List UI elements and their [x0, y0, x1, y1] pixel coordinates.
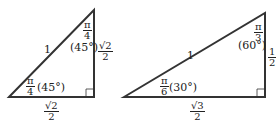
t1-bottom-angle-frac: π 4: [26, 76, 35, 97]
t2-top-angle-degrees: (60°): [238, 40, 266, 51]
t2-bottom-angle-degrees: (30°): [169, 82, 197, 93]
triangles-drawing: [0, 0, 278, 125]
t1-bottom-angle-degrees: (45°): [37, 82, 65, 93]
t2-hypotenuse-label: 1: [187, 50, 194, 61]
right-angle-marker-2: [257, 89, 265, 97]
t1-top-angle-frac: π 4: [83, 20, 92, 41]
t1-vertical-side-label: √2 2: [98, 41, 113, 62]
t1-top-angle-degrees: (45°): [70, 42, 98, 53]
right-angle-marker-1: [86, 89, 94, 97]
t2-horizontal-side-label: √3 2: [190, 101, 205, 122]
t2-bottom-angle-frac: π 6: [160, 76, 169, 97]
special-triangles-diagram: 1 π 4 (45°) π 4 (45°) √2 2 √2 2 1 π 3 (6…: [0, 0, 278, 125]
t1-horizontal-side-label: √2 2: [44, 101, 59, 122]
t2-vertical-side-label: 1 2: [268, 47, 276, 68]
t1-hypotenuse-label: 1: [44, 44, 51, 55]
